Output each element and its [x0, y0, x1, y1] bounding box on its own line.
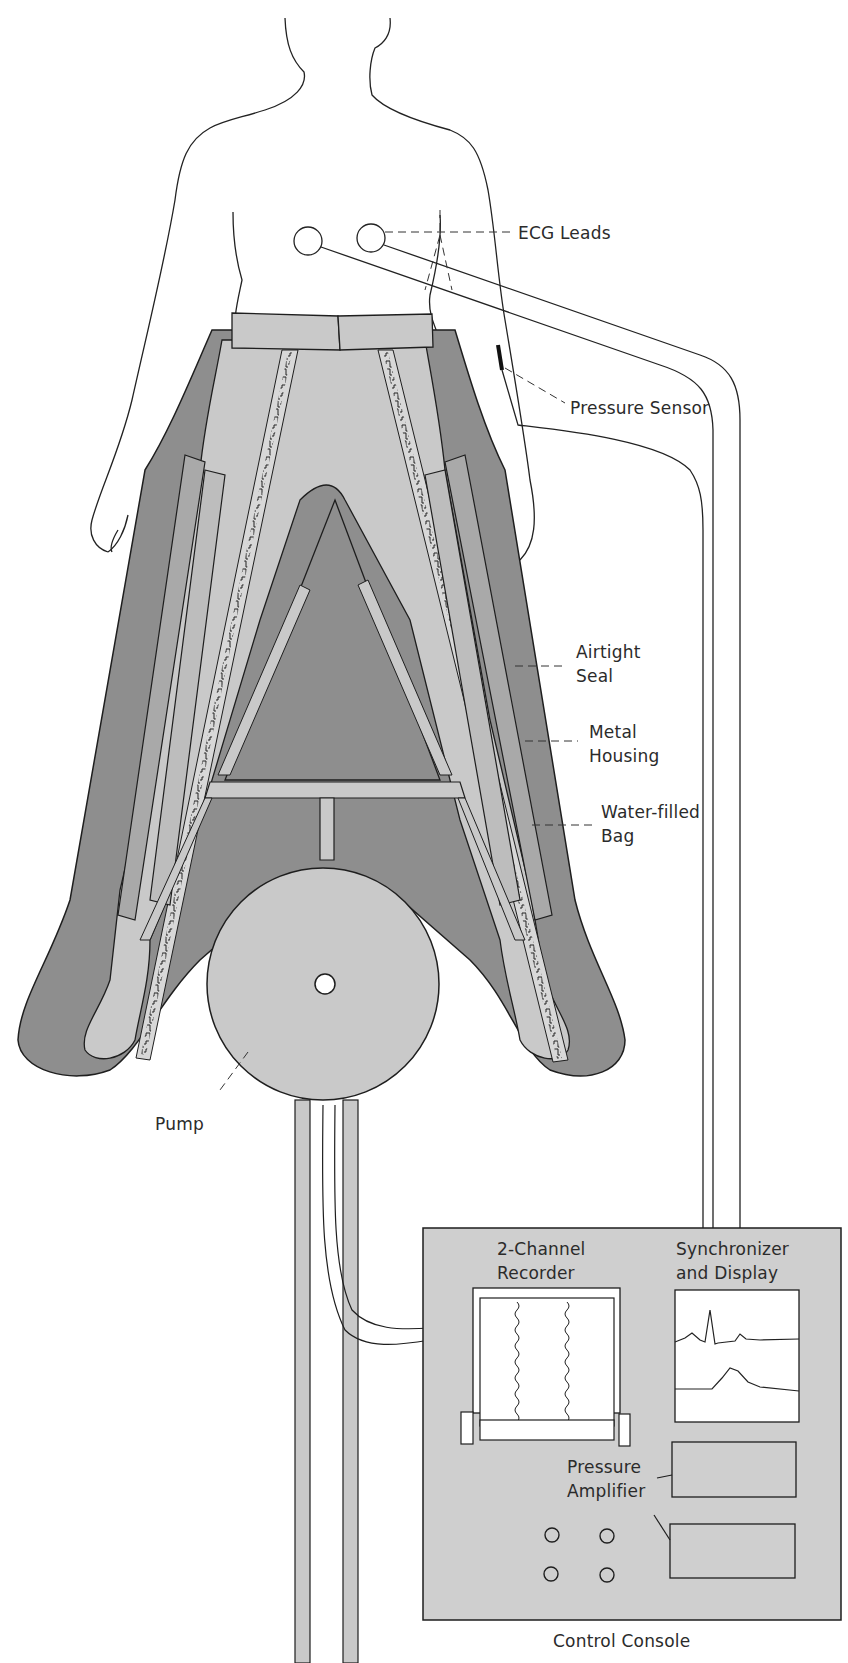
label-airtight-seal: Airtight Seal: [576, 640, 641, 688]
apparatus-illustration: [0, 0, 848, 1663]
ecg-leads: [294, 224, 385, 255]
control-console: [423, 1228, 841, 1620]
label-water-filled-bag: Water-filled Bag: [601, 800, 700, 848]
label-pump: Pump: [155, 1113, 204, 1135]
label-pressure-sensor: Pressure Sensor: [570, 397, 709, 419]
belt: [232, 313, 340, 350]
label-recorder: 2-Channel Recorder: [497, 1237, 586, 1285]
pump: [207, 868, 439, 1100]
label-synchronizer: Synchronizer and Display: [676, 1237, 789, 1285]
label-control-console: Control Console: [553, 1630, 690, 1652]
label-ecg-leads: ECG Leads: [518, 222, 611, 244]
label-pressure-amplifier: Pressure Amplifier: [567, 1455, 645, 1503]
pump-pipes: [295, 1100, 430, 1663]
label-metal-housing: Metal Housing: [589, 720, 660, 768]
